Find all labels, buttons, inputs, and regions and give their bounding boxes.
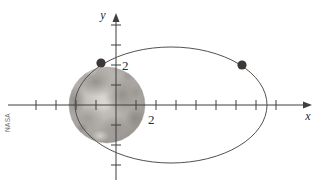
nasa-credit-label: NASA: [4, 86, 11, 132]
orbit-diagram-figure: y x 2 2 NASA: [0, 0, 320, 184]
y-axis-label: y: [99, 8, 106, 22]
satellite-left-marker: [96, 58, 105, 67]
x-axis-arrow-icon: [303, 102, 312, 109]
x-axis-tick-label-2: 2: [148, 112, 155, 127]
satellite-right-marker: [237, 60, 246, 69]
orbit-diagram-canvas: y x 2 2: [0, 0, 320, 184]
y-axis-arrow-icon: [113, 13, 120, 22]
y-axis-tick-label-2: 2: [122, 58, 129, 73]
x-axis-label: x: [304, 109, 311, 123]
